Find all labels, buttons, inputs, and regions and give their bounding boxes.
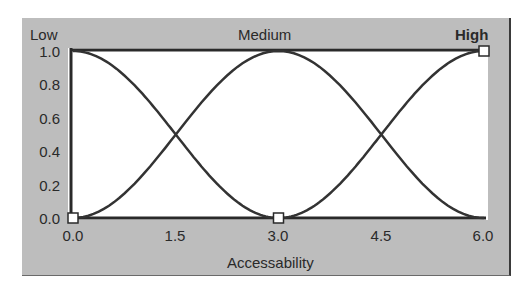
- curve-high: [279, 51, 485, 218]
- x-tick-label: 6.0: [463, 228, 503, 243]
- x-axis-label: Accessability: [227, 255, 314, 270]
- term-label-medium[interactable]: Medium: [238, 27, 291, 42]
- x-tick-label: 1.5: [155, 228, 195, 243]
- curve-medium: [73, 51, 484, 218]
- x-tick-label: 4.5: [361, 228, 401, 243]
- drag-handle[interactable]: [274, 213, 284, 223]
- term-label-low[interactable]: Low: [30, 27, 58, 42]
- y-tick-label: 0.2: [20, 178, 60, 193]
- y-tick-label: 0.0: [20, 211, 60, 226]
- term-label-high[interactable]: High: [455, 27, 488, 42]
- drag-handle[interactable]: [68, 213, 78, 223]
- x-tick-label: 0.0: [53, 228, 93, 243]
- y-tick-label: 0.4: [20, 144, 60, 159]
- y-tick-label: 0.6: [20, 111, 60, 126]
- y-tick-label: 1.0: [20, 44, 60, 59]
- y-tick-label: 0.8: [20, 77, 60, 92]
- drag-handle[interactable]: [479, 46, 489, 56]
- x-tick-label: 3.0: [258, 228, 298, 243]
